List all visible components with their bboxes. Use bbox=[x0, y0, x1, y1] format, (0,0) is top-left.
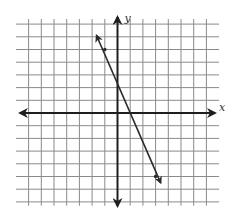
x-axis-label: x bbox=[219, 101, 226, 114]
y-axis-label: y bbox=[124, 12, 132, 25]
plotted-point bbox=[154, 175, 158, 179]
axes bbox=[20, 17, 215, 206]
plotted-line bbox=[97, 36, 161, 183]
coordinate-plane: x y bbox=[0, 0, 234, 215]
plotted-point bbox=[103, 48, 107, 52]
